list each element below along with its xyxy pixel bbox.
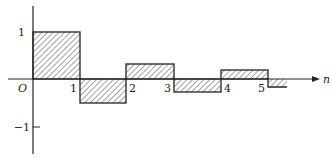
x-axis-arrow-icon xyxy=(312,76,320,82)
bar-n3 xyxy=(174,79,221,92)
bar-n0 xyxy=(33,32,80,79)
bar-n2 xyxy=(126,64,174,79)
x-tick-label-2: 2 xyxy=(129,82,136,95)
x-tick-label-1: 1 xyxy=(70,82,77,95)
x-tick-label-4: 4 xyxy=(224,82,231,95)
y-label-1: 1 xyxy=(18,26,25,39)
bar-n4 xyxy=(221,70,268,79)
x-tick-label-5: 5 xyxy=(258,82,265,95)
y-label-neg1: −1 xyxy=(14,121,30,134)
x-axis-label: n xyxy=(323,73,330,86)
step-function-diagram: 1 −1 O 1 2 3 4 5 n xyxy=(0,0,332,158)
bar-n1 xyxy=(80,79,126,103)
x-tick-label-3: 3 xyxy=(164,82,171,95)
origin-label: O xyxy=(18,82,27,95)
